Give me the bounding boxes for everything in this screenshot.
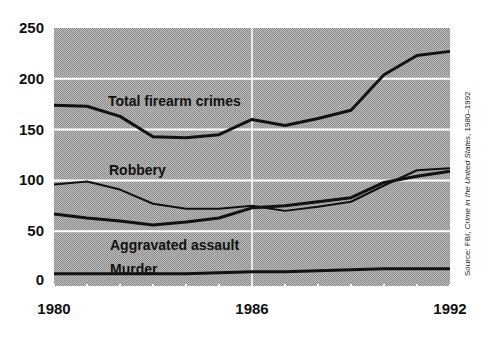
x-tick-mark [185, 284, 187, 287]
x-tick-mark [119, 284, 121, 287]
x-tick-mark [53, 284, 55, 287]
source-suffix: , 1980–1992 [463, 91, 472, 136]
x-tick-mark [350, 284, 352, 287]
x-tick-mark [317, 284, 319, 287]
y-tick-250: 250 [19, 19, 44, 36]
y-tick-100: 100 [19, 171, 44, 188]
x-tick-1980: 1980 [37, 300, 70, 317]
x-tick-mark [86, 284, 88, 287]
source-note: Source: FBI, Crime in the United States,… [463, 91, 472, 276]
x-tick-mark [251, 284, 253, 287]
x-tick-mark [152, 284, 154, 287]
label-murder: Murder [110, 261, 158, 277]
label-robbery: Robbery [109, 162, 166, 178]
y-tick-150: 150 [19, 121, 44, 138]
x-tick-mark [284, 284, 286, 287]
y-tick-200: 200 [19, 70, 44, 87]
source-prefix: Source: FBI, [463, 229, 472, 276]
source-title: Crime in the United States [463, 136, 472, 229]
x-tick-mark [218, 284, 220, 287]
x-tick-1986: 1986 [235, 300, 268, 317]
y-tick-0: 0 [36, 271, 44, 288]
x-tick-1992: 1992 [433, 300, 466, 317]
label-aggravated-assault: Aggravated assault [110, 237, 239, 253]
x-tick-mark [416, 284, 418, 287]
x-tick-mark [449, 284, 451, 287]
y-axis-labels: 250200150100500 [19, 19, 44, 288]
x-tick-mark [383, 284, 385, 287]
firearm-crimes-chart: 250200150100500 198019861992 Total firea… [0, 0, 492, 337]
y-tick-50: 50 [27, 222, 44, 239]
x-axis-labels: 198019861992 [37, 300, 466, 317]
label-total-firearm-crimes: Total firearm crimes [108, 93, 241, 109]
